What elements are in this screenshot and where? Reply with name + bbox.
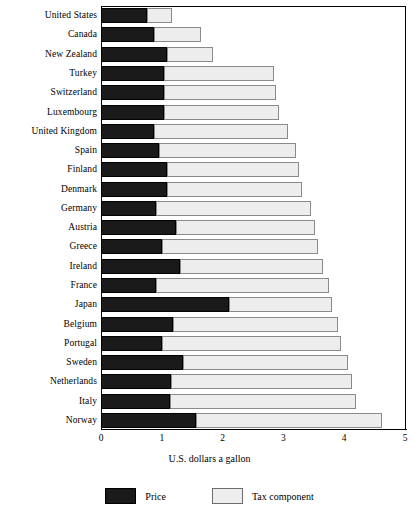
- category-label: United Kingdom: [0, 126, 97, 136]
- bar-row: [101, 124, 406, 139]
- bar-row: [101, 413, 406, 428]
- bar-segment-tax: [164, 85, 276, 100]
- category-label: New Zealand: [0, 49, 97, 59]
- category-label: Netherlands: [0, 376, 97, 386]
- x-axis-line: [101, 429, 407, 430]
- bar-row: [101, 317, 406, 332]
- bar-segment-tax: [156, 278, 329, 293]
- bar-row: [101, 374, 406, 389]
- bar-segment-price: [101, 336, 162, 351]
- bar-segment-price: [101, 85, 164, 100]
- bar-row: [101, 8, 406, 23]
- category-label: Italy: [0, 396, 97, 406]
- bar-segment-tax: [170, 394, 357, 409]
- bar-segment-price: [101, 239, 162, 254]
- bar-segment-price: [101, 201, 156, 216]
- category-label: United States: [0, 10, 97, 20]
- bar-row: [101, 47, 406, 62]
- gasoline-price-chart: United StatesCanadaNew ZealandTurkeySwit…: [0, 0, 419, 528]
- bar-row: [101, 259, 406, 274]
- x-tick-label: 5: [395, 433, 415, 444]
- bar-segment-tax: [164, 105, 280, 120]
- bar-segment-tax: [164, 66, 275, 81]
- bar-segment-price: [101, 124, 154, 139]
- x-tick-label: 0: [91, 433, 111, 444]
- legend-swatch-tax: [212, 488, 243, 504]
- bar-segment-tax: [167, 162, 299, 177]
- legend-item-tax: Tax component: [212, 488, 314, 504]
- category-label: France: [0, 280, 97, 290]
- bar-segment-tax: [147, 8, 173, 23]
- x-tick-label: 3: [273, 433, 293, 444]
- bar-segment-price: [101, 278, 156, 293]
- category-label: Ireland: [0, 261, 97, 271]
- bar-segment-tax: [156, 201, 311, 216]
- bar-segment-price: [101, 413, 196, 428]
- category-label: Turkey: [0, 68, 97, 78]
- bar-row: [101, 239, 406, 254]
- bar-row: [101, 85, 406, 100]
- bar-segment-tax: [154, 27, 201, 42]
- bar-segment-price: [101, 143, 159, 158]
- bar-segment-price: [101, 105, 164, 120]
- category-label: Spain: [0, 145, 97, 155]
- bar-row: [101, 162, 406, 177]
- bar-segment-price: [101, 66, 164, 81]
- bar-segment-tax: [196, 413, 382, 428]
- x-tick-label: 2: [213, 433, 233, 444]
- bar-row: [101, 220, 406, 235]
- bar-segment-price: [101, 8, 147, 23]
- bar-series-container: [101, 6, 406, 430]
- bar-segment-price: [101, 259, 180, 274]
- category-label: Denmark: [0, 184, 97, 194]
- category-label: Luxembourg: [0, 107, 97, 117]
- category-label: Germany: [0, 203, 97, 213]
- legend-label-price: Price: [145, 491, 166, 502]
- chart-legend: Price Tax component: [0, 488, 419, 504]
- category-label: Sweden: [0, 357, 97, 367]
- category-label: Switzerland: [0, 87, 97, 97]
- category-label: Canada: [0, 29, 97, 39]
- category-label: Belgium: [0, 319, 97, 329]
- bar-row: [101, 143, 406, 158]
- bar-row: [101, 297, 406, 312]
- category-label: Japan: [0, 299, 97, 309]
- category-axis-labels: United StatesCanadaNew ZealandTurkeySwit…: [0, 6, 97, 430]
- x-tick-label: 1: [152, 433, 172, 444]
- category-label: Finland: [0, 164, 97, 174]
- bar-segment-tax: [167, 182, 302, 197]
- legend-item-price: Price: [105, 488, 166, 504]
- bar-segment-price: [101, 394, 170, 409]
- bar-segment-tax: [154, 124, 288, 139]
- bar-row: [101, 394, 406, 409]
- bar-segment-tax: [176, 220, 315, 235]
- bar-segment-tax: [167, 47, 214, 62]
- bar-row: [101, 66, 406, 81]
- bar-segment-tax: [159, 143, 296, 158]
- bar-row: [101, 27, 406, 42]
- bar-segment-price: [101, 182, 167, 197]
- bar-row: [101, 336, 406, 351]
- bar-segment-tax: [162, 336, 341, 351]
- bar-row: [101, 182, 406, 197]
- bar-segment-price: [101, 317, 173, 332]
- legend-swatch-price: [105, 488, 136, 504]
- x-tick-label: 4: [334, 433, 354, 444]
- bar-segment-price: [101, 47, 167, 62]
- bar-segment-price: [101, 162, 167, 177]
- bar-segment-tax: [173, 317, 338, 332]
- bar-row: [101, 355, 406, 370]
- category-label: Portugal: [0, 338, 97, 348]
- bar-segment-price: [101, 374, 171, 389]
- legend-label-tax: Tax component: [252, 491, 314, 502]
- bar-segment-tax: [229, 297, 332, 312]
- bar-segment-price: [101, 355, 183, 370]
- bar-segment-price: [101, 297, 229, 312]
- category-label: Greece: [0, 241, 97, 251]
- bar-segment-tax: [180, 259, 323, 274]
- bar-segment-price: [101, 27, 154, 42]
- bar-segment-tax: [171, 374, 352, 389]
- category-label: Norway: [0, 415, 97, 425]
- bar-row: [101, 201, 406, 216]
- category-label: Austria: [0, 222, 97, 232]
